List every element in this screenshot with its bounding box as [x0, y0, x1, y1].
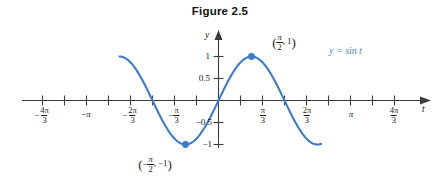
- x-tick-label-neg-pi: −π: [81, 110, 91, 119]
- x-tick-label-neg-2pi-over-3: −2π3: [122, 106, 138, 125]
- y-axis-label: y: [205, 30, 209, 40]
- figure-container: Figure 2.5: [0, 0, 440, 182]
- x-tick-label-neg-4pi-over-3: −4π3: [34, 106, 50, 125]
- y-tick-label-0-5: 0.5: [188, 74, 210, 83]
- y-tick-label-1: 1: [198, 52, 210, 61]
- sine-graph-plot: [0, 0, 440, 182]
- max-point-marker: [248, 53, 255, 60]
- x-tick-label-neg-pi-over-3: −π3: [168, 106, 179, 125]
- y-axis-arrowhead: [215, 30, 223, 40]
- min-point-marker: [182, 141, 189, 148]
- y-tick-label-neg-0-5: −0.5: [188, 118, 212, 127]
- x-tick-label-4pi-over-3: 4π3: [389, 106, 400, 125]
- y-tick-label-neg-1: −1: [196, 140, 212, 149]
- max-point-label: (π2, 1): [272, 33, 296, 52]
- x-tick-label-2pi-over-3: 2π3: [302, 106, 313, 125]
- x-tick-label-pi: π: [349, 110, 354, 119]
- x-tick-label-pi-over-3: π3: [260, 106, 266, 125]
- min-point-label: (−π2, −1): [138, 155, 172, 174]
- curve-equation-label: y = sin t: [329, 45, 362, 56]
- x-axis-label: t: [422, 104, 425, 114]
